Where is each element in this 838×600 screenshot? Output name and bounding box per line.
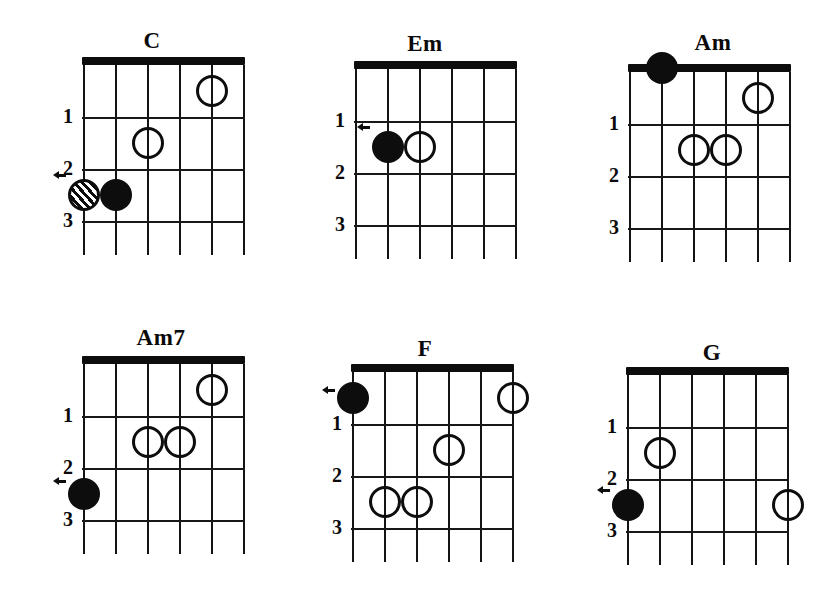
string-2-am	[661, 72, 663, 262]
nut-c	[82, 57, 245, 65]
arrow-indicator-am7-0	[53, 477, 66, 486]
fret-number-3-am: 3	[599, 217, 619, 237]
chord-title-em: Em	[385, 31, 465, 57]
open-marker-am-1	[678, 134, 710, 166]
string-1-am	[629, 72, 631, 262]
fret-line-3-am7	[82, 520, 245, 522]
fret-line-1-am7	[82, 416, 245, 418]
filled-marker-f-0	[337, 382, 369, 414]
arrow-shaft	[56, 480, 66, 483]
arrow-indicator-g-0	[597, 486, 610, 495]
nut-f	[351, 364, 514, 372]
fret-number-1-am7: 1	[53, 405, 73, 425]
open-marker-am7-0	[196, 374, 228, 406]
fret-line-3-f	[351, 528, 514, 530]
string-3-g	[691, 375, 693, 565]
open-marker-c-0	[196, 75, 228, 107]
open-marker-f-1	[497, 382, 529, 414]
fret-number-1-c: 1	[53, 106, 73, 126]
fret-number-2-em: 2	[325, 162, 345, 182]
fret-number-3-c: 3	[53, 210, 73, 230]
open-marker-am-0	[742, 82, 774, 114]
string-1-g	[627, 375, 629, 565]
arrow-shaft	[360, 126, 370, 129]
arrow-indicator-c-0	[53, 171, 66, 180]
fret-number-3-g: 3	[597, 520, 617, 540]
nut-em	[354, 61, 517, 69]
arrow-indicator-am-0	[631, 64, 644, 73]
string-4-f	[448, 372, 450, 562]
string-2-g	[659, 375, 661, 565]
string-4-em	[451, 69, 453, 259]
string-3-f	[416, 372, 418, 562]
arrow-shaft	[634, 67, 644, 70]
chord-title-am: Am	[673, 30, 753, 56]
open-marker-am7-2	[164, 426, 196, 458]
string-3-am	[693, 72, 695, 262]
hatched-marker-c-2	[68, 179, 100, 211]
fret-number-1-f: 1	[322, 413, 342, 433]
string-6-g	[787, 375, 789, 565]
fret-number-2-am7: 2	[53, 457, 73, 477]
string-4-am	[725, 72, 727, 262]
string-1-c	[83, 65, 85, 255]
fret-number-1-g: 1	[597, 416, 617, 436]
string-2-am7	[115, 364, 117, 554]
fret-number-1-em: 1	[325, 110, 345, 130]
arrow-shaft	[56, 174, 66, 177]
string-4-am7	[179, 364, 181, 554]
fret-line-1-c	[82, 117, 245, 119]
chord-sheet: C123Em123Am123Am7123F123G123	[0, 0, 838, 600]
chord-title-g: G	[672, 340, 752, 366]
string-5-g	[755, 375, 757, 565]
string-4-g	[723, 375, 725, 565]
open-marker-am7-1	[132, 426, 164, 458]
filled-marker-g-1	[612, 489, 644, 521]
nut-g	[626, 367, 789, 375]
arrow-indicator-em-0	[357, 123, 370, 132]
open-marker-g-0	[644, 437, 676, 469]
fret-number-2-f: 2	[322, 465, 342, 485]
fret-number-1-am: 1	[599, 113, 619, 133]
chord-title-f: F	[385, 336, 465, 362]
nut-am7	[82, 356, 245, 364]
chord-title-am7: Am7	[121, 325, 201, 351]
string-3-am7	[147, 364, 149, 554]
string-5-f	[480, 372, 482, 562]
open-marker-em-1	[404, 131, 436, 163]
arrow-shaft	[325, 389, 335, 392]
string-2-c	[115, 65, 117, 255]
filled-marker-em-0	[372, 131, 404, 163]
fret-number-3-em: 3	[325, 214, 345, 234]
string-6-c	[243, 65, 245, 255]
string-5-em	[483, 69, 485, 259]
filled-marker-c-3	[100, 179, 132, 211]
string-6-am	[789, 72, 791, 262]
chord-title-c: C	[112, 28, 192, 54]
open-marker-am-2	[710, 134, 742, 166]
fret-line-3-g	[626, 531, 789, 533]
filled-marker-am7-3	[68, 478, 100, 510]
string-1-am7	[83, 364, 85, 554]
filled-marker-am-3	[646, 52, 678, 84]
string-6-em	[515, 69, 517, 259]
open-marker-f-2	[433, 434, 465, 466]
fret-line-2-c	[82, 169, 245, 171]
string-3-em	[419, 69, 421, 259]
string-6-am7	[243, 364, 245, 554]
fret-number-2-g: 2	[597, 468, 617, 488]
arrow-shaft	[600, 489, 610, 492]
arrow-indicator-f-0	[322, 386, 335, 395]
fret-number-2-am: 2	[599, 165, 619, 185]
fret-line-1-f	[351, 424, 514, 426]
fret-line-3-em	[354, 225, 517, 227]
fret-line-2-em	[354, 173, 517, 175]
string-1-em	[355, 69, 357, 259]
fret-number-3-f: 3	[322, 517, 342, 537]
fret-line-1-em	[354, 121, 517, 123]
string-3-c	[147, 65, 149, 255]
open-marker-f-4	[401, 486, 433, 518]
string-4-c	[179, 65, 181, 255]
fret-line-2-f	[351, 476, 514, 478]
fret-number-3-am7: 3	[53, 509, 73, 529]
